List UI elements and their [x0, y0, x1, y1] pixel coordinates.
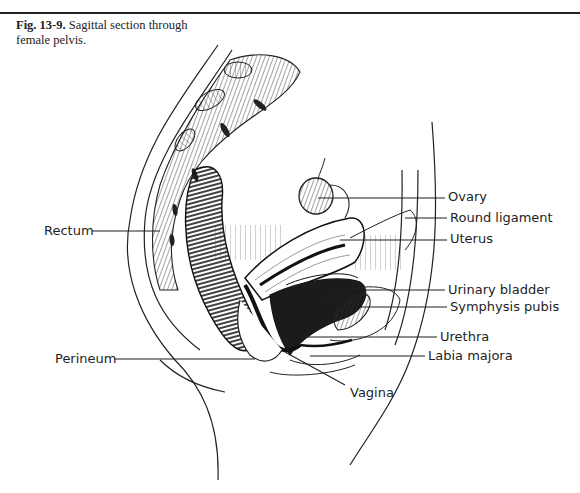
label-symphysis-pubis: Symphysis pubis — [450, 299, 559, 315]
ovary-organ — [299, 158, 349, 218]
label-ovary: Ovary — [448, 189, 487, 205]
leader-vagina — [285, 352, 345, 385]
label-uterus: Uterus — [450, 231, 493, 247]
pelvis-illustration — [0, 0, 580, 493]
label-urinary-bladder: Urinary bladder — [448, 282, 550, 298]
label-urethra: Urethra — [440, 329, 489, 345]
label-perineum: Perineum — [55, 351, 116, 367]
label-vagina: Vagina — [350, 385, 394, 401]
label-labia-majora: Labia majora — [428, 348, 513, 364]
label-round-ligament: Round ligament — [450, 210, 553, 226]
label-rectum: Rectum — [44, 223, 94, 239]
